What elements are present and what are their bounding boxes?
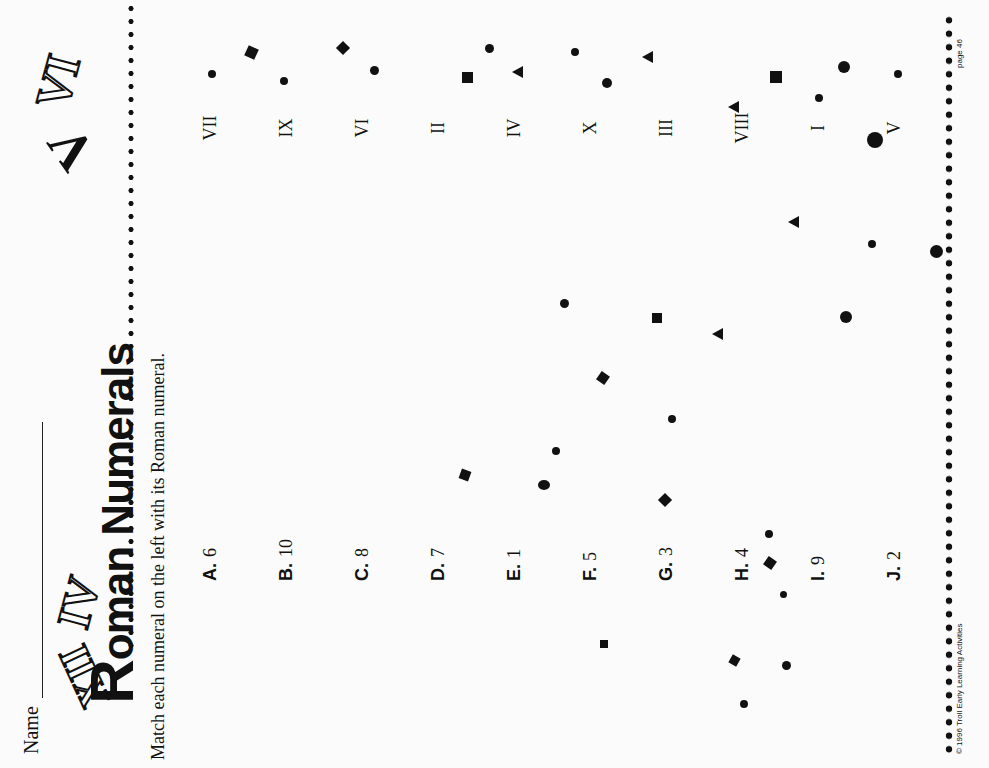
item-letter: D. [428,563,448,581]
left-item-e[interactable]: E.1 [504,549,525,581]
page-number: page 46 [955,39,964,68]
item-letter: A. [200,563,220,581]
item-value: 1 [504,549,524,558]
decor-square-icon [658,493,672,507]
decor-triangle-icon [788,216,799,228]
left-item-g[interactable]: G.3 [656,547,677,581]
decor-numeral-v: V [34,115,107,183]
footer-dotted-line [944,16,954,756]
decor-square-icon [770,71,782,83]
instructions: Match each numeral on the left with its … [148,353,169,760]
decor-dot-icon [930,245,943,258]
decor-dot-icon [780,591,787,598]
decor-square-icon [652,313,662,323]
decor-dot-icon [838,61,850,73]
decor-dot-icon [765,530,773,538]
decor-dot-icon [815,94,823,102]
decor-triangle-icon [512,66,523,78]
left-item-i[interactable]: I.9 [808,556,829,581]
decor-square-icon [459,469,472,482]
left-item-j[interactable]: J.2 [884,551,905,581]
decor-dot-icon [280,77,288,85]
decor-dot-icon [668,415,676,423]
decor-dot-icon [867,132,883,148]
item-value: 2 [884,551,904,560]
item-letter: C. [352,563,372,581]
decor-dot-icon [552,447,560,455]
decor-square-icon [763,556,777,570]
page-title: Roman Numerals [76,343,147,704]
decor-dot-icon [868,240,876,248]
item-letter: G. [656,562,676,581]
item-value: 5 [580,552,600,561]
decor-square-icon [600,640,608,648]
decor-square-icon [462,72,473,83]
right-item-1[interactable]: VII [200,93,221,163]
right-item-10[interactable]: V [884,93,905,163]
item-value: 6 [200,548,220,557]
item-letter: B. [276,563,296,581]
worksheet-page: Name XII IV V VI Roman Numerals Match ea… [0,0,989,768]
title-dotted-underline [127,0,135,652]
item-letter: E. [504,564,524,581]
left-item-a[interactable]: A.6 [200,548,221,581]
title-initial: R [77,660,146,704]
item-value: 8 [352,548,372,557]
decor-triangle-icon [642,51,653,63]
right-item-2[interactable]: IX [276,93,297,163]
left-item-b[interactable]: B.10 [276,539,297,581]
decor-triangle-icon [712,328,723,340]
decor-square-icon [728,654,740,666]
decor-square-icon [596,371,610,385]
decor-dot-icon [840,311,852,323]
left-item-c[interactable]: C.8 [352,548,373,581]
right-item-7[interactable]: III [656,93,677,163]
decor-square-icon [244,45,259,60]
name-label: Name [20,706,43,754]
item-letter: I. [808,571,828,581]
item-letter: H. [732,563,752,581]
item-letter: F. [580,567,600,581]
item-value: 9 [808,556,828,565]
decor-square-icon [336,41,350,55]
item-letter: J. [884,566,904,581]
decor-triangle-icon [728,101,739,113]
item-value: 10 [276,539,296,557]
copyright-text: © 1996 Troll Early Learning Activities [955,624,964,754]
right-item-3[interactable]: VI [352,93,373,163]
item-value: 7 [428,548,448,557]
decor-dot-icon [740,700,748,708]
decor-dot-icon [538,480,550,490]
right-item-4[interactable]: II [428,93,449,163]
item-value: 4 [732,548,752,557]
decor-dot-icon [560,299,569,308]
decor-dot-icon [894,70,902,78]
decor-dot-icon [208,70,216,78]
decor-dot-icon [602,78,612,88]
right-item-9[interactable]: I [808,93,829,163]
decor-numeral-vi: VI [24,48,91,114]
left-item-d[interactable]: D.7 [428,548,449,581]
decor-dot-icon [782,661,791,670]
left-item-h[interactable]: H.4 [732,548,753,581]
item-value: 3 [656,547,676,556]
decor-dot-icon [571,48,579,56]
decor-dot-icon [370,66,379,75]
decor-dot-icon [485,44,494,53]
right-item-5[interactable]: IV [504,93,525,163]
left-item-f[interactable]: F.5 [580,552,601,581]
name-input-line[interactable] [42,422,43,698]
right-item-6[interactable]: X [580,93,601,163]
